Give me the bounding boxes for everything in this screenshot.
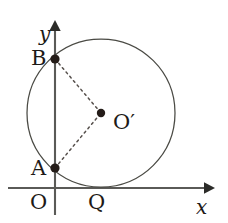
origin-label: O (30, 192, 47, 213)
y-axis-arrowhead (49, 20, 60, 31)
point-center-dot (97, 109, 105, 117)
center-label: O′ (113, 112, 135, 133)
point-b-label: B (31, 48, 46, 69)
center-label-text: O (113, 110, 130, 134)
geometry-figure: y x B A O Q O′ (0, 0, 228, 223)
point-a-label: A (31, 158, 46, 179)
point-q-label: Q (88, 192, 105, 213)
radius-segment-a-center (55, 113, 101, 168)
y-axis-label: y (39, 24, 50, 44)
point-a-dot (50, 163, 59, 172)
x-axis-arrowhead (204, 182, 215, 194)
radius-segment-b-center (55, 59, 101, 113)
x-axis-label: x (196, 197, 207, 217)
center-prime-mark: ′ (130, 110, 135, 134)
point-b-dot (50, 54, 59, 63)
